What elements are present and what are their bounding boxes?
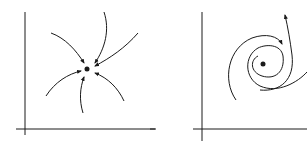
trajectory bbox=[51, 33, 84, 63]
spiral-trajectory bbox=[248, 46, 307, 89]
trajectory bbox=[95, 33, 138, 66]
trajectory bbox=[80, 77, 84, 113]
spiral-panel bbox=[150, 12, 307, 141]
trajectory bbox=[95, 12, 107, 63]
equilibrium-point bbox=[85, 67, 90, 72]
spiral-trajectory bbox=[229, 36, 282, 100]
trajectory bbox=[46, 71, 81, 96]
equilibrium-point bbox=[261, 62, 266, 67]
stable-node-panel bbox=[16, 12, 155, 135]
trajectory bbox=[95, 73, 124, 101]
phase-portrait-diagram bbox=[0, 0, 307, 147]
spiral-trajectory bbox=[260, 15, 292, 90]
